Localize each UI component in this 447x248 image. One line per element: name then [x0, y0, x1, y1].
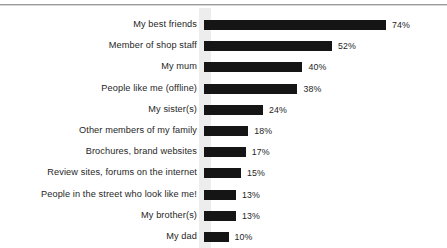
category-label: My best friends: [133, 20, 197, 29]
category-label: People like me (offline): [101, 84, 197, 93]
bar: [204, 20, 386, 30]
value-label: 24%: [269, 105, 287, 114]
bar-row: My mum40%: [0, 57, 447, 78]
bar: [204, 62, 302, 72]
category-label: Review sites, forums on the internet: [47, 169, 197, 178]
category-label: My sister(s): [148, 105, 197, 114]
value-label: 13%: [242, 211, 260, 220]
value-label: 38%: [303, 84, 321, 93]
category-label: My mum: [161, 63, 197, 72]
bar: [204, 41, 332, 51]
bar: [204, 232, 229, 242]
value-label: 18%: [254, 126, 272, 135]
category-label: Other members of my family: [79, 126, 197, 135]
category-label: Brochures, brand websites: [86, 147, 197, 156]
value-label: 13%: [242, 190, 260, 199]
value-label: 40%: [308, 63, 326, 72]
bar-row: My brother(s)13%: [0, 205, 447, 226]
category-label: People in the street who look like me!: [41, 190, 197, 199]
bar-row: Review sites, forums on the internet15%: [0, 163, 447, 184]
bar: [204, 126, 248, 136]
value-label: 52%: [338, 42, 356, 51]
bar-row: Member of shop staff52%: [0, 36, 447, 57]
plot-area: My best friends74%Member of shop staff52…: [0, 0, 447, 248]
bar: [204, 190, 236, 200]
bar-chart-figure: My best friends74%Member of shop staff52…: [0, 0, 447, 248]
bar: [204, 105, 263, 115]
category-label: My brother(s): [141, 211, 197, 220]
value-label: 10%: [235, 232, 253, 241]
category-label: My dad: [166, 232, 197, 241]
bar-row: People in the street who look like me!13…: [0, 184, 447, 205]
bar-row: My sister(s)24%: [0, 99, 447, 120]
bar-row: My dad10%: [0, 226, 447, 247]
value-label: 15%: [247, 169, 265, 178]
bar-row: My best friends74%: [0, 14, 447, 35]
bar: [204, 211, 236, 221]
bar-row: Brochures, brand websites17%: [0, 142, 447, 163]
bar: [204, 168, 241, 178]
bar: [204, 147, 246, 157]
value-label: 17%: [252, 148, 270, 157]
bar-row: Other members of my family18%: [0, 120, 447, 141]
bar-row: People like me (offline)38%: [0, 78, 447, 99]
value-label: 74%: [392, 20, 410, 29]
bar: [204, 84, 297, 94]
category-label: Member of shop staff: [109, 41, 197, 50]
